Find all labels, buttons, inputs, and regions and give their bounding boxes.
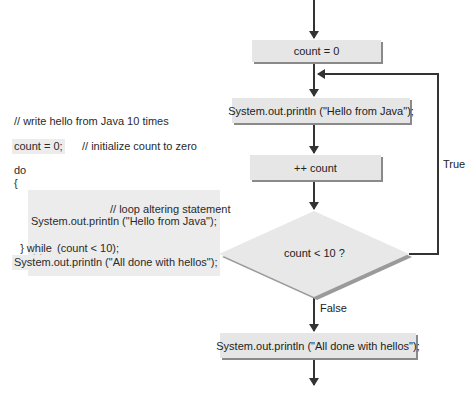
false-branch-label: False [320, 302, 347, 314]
flow-print-box: System.out.println ("Hello from Java"); [232, 98, 410, 123]
flow-decision-label: count < 10 ? [284, 247, 345, 259]
true-branch-label: True [443, 158, 465, 170]
flow-init-box: count = 0 [252, 40, 381, 62]
flow-increment-box: ++ count [250, 155, 381, 180]
flow-final-box: System.out.println ("All done with hello… [220, 333, 416, 358]
